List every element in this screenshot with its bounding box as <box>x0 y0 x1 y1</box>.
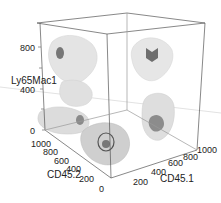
x-axis: 200 400 600 800 1000 CD45.1 <box>133 145 217 187</box>
3d-plot: 800 400 0 Ly65Mac1 1000 800 600 400 200 … <box>0 0 221 203</box>
y-tick: 200 <box>79 174 94 184</box>
x-tick: 800 <box>183 152 198 162</box>
cluster-core <box>56 47 64 59</box>
z-tick: 800 <box>20 43 35 53</box>
z-tick: 400 <box>20 85 35 95</box>
cluster-core <box>102 140 110 148</box>
x-tick: 600 <box>168 158 183 168</box>
y-tick: 0 <box>99 184 104 194</box>
z-tick: 0 <box>30 126 35 136</box>
z-axis-label: Ly65Mac1 <box>11 75 57 86</box>
x-tick: 1000 <box>197 145 217 155</box>
cluster-core <box>76 115 84 125</box>
x-axis-label: CD45.1 <box>160 173 194 184</box>
x-tick: 200 <box>133 177 148 187</box>
cluster-mid-left <box>60 80 93 106</box>
isosurface-clusters <box>38 35 174 164</box>
y-axis-label: CD45.2 <box>47 169 81 180</box>
